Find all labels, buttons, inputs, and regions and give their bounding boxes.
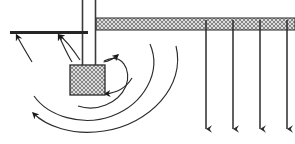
hatched-horizontal-beam (96, 18, 295, 30)
bar-body (10, 31, 88, 34)
mechanics-diagram (0, 0, 295, 144)
block-body (70, 65, 105, 95)
load-arrow-group (206, 20, 287, 129)
reaction-arrow-right (59, 35, 73, 62)
post-to-bar-arc (59, 35, 80, 60)
diagram-canvas (0, 0, 295, 144)
beam-body (96, 18, 295, 30)
hatched-block (70, 65, 105, 95)
thin-horizontal-bar (10, 31, 88, 34)
reaction-arrow-left (17, 35, 33, 62)
